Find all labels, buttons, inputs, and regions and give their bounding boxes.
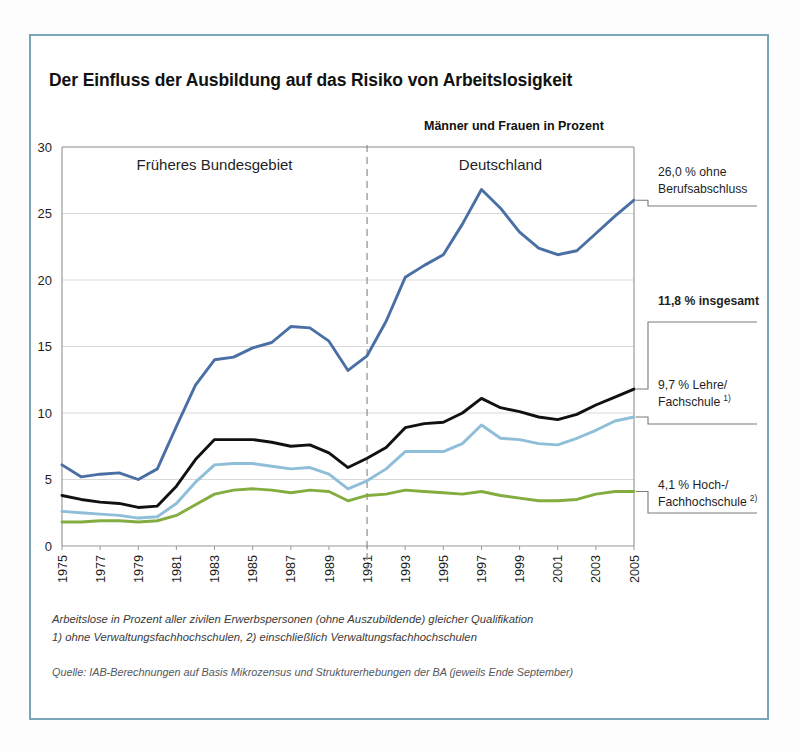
x-tick-label: 1977 bbox=[94, 555, 108, 583]
x-tick-label: 1989 bbox=[323, 555, 337, 583]
x-axis-ticks: 1975197719791981198319851987198919911993… bbox=[56, 546, 642, 583]
x-tick-label: 2001 bbox=[551, 555, 565, 583]
x-tick-label: 1999 bbox=[513, 555, 527, 583]
annotation-label-2: Fachschule1) bbox=[658, 393, 731, 409]
source-note: Quelle: IAB-Berechnungen auf Basis Mikro… bbox=[52, 666, 573, 678]
x-tick-label: 1995 bbox=[437, 555, 451, 583]
x-tick-label: 1981 bbox=[170, 555, 184, 583]
end-annotations-group: 26,0 % ohneBerufsabschluss11,8 % insgesa… bbox=[636, 165, 759, 513]
x-tick-label: 2005 bbox=[628, 555, 642, 583]
series-line-0 bbox=[62, 190, 634, 480]
region-label-0: Früheres Bundesgebiet bbox=[137, 156, 294, 173]
annotation-superscript-3: 2) bbox=[750, 493, 758, 503]
annotation-value-2: 9,7 % Lehre/ bbox=[658, 378, 728, 392]
y-tick-label: 5 bbox=[45, 472, 52, 487]
annotation-value-3: 4,1 % Hoch-/ bbox=[658, 478, 729, 492]
x-tick-label: 1987 bbox=[284, 555, 298, 583]
x-tick-label: 1975 bbox=[56, 555, 70, 583]
series-lines-group bbox=[62, 190, 634, 523]
y-tick-label: 20 bbox=[38, 273, 52, 288]
annotation-value-0: 26,0 % ohne bbox=[658, 165, 727, 179]
annotation-leader-0 bbox=[636, 200, 757, 206]
x-tick-label: 1985 bbox=[246, 555, 260, 583]
region-labels-group: Früheres BundesgebietDeutschland bbox=[137, 156, 543, 173]
region-label-1: Deutschland bbox=[459, 156, 542, 173]
x-tick-label: 1997 bbox=[475, 555, 489, 583]
y-tick-label: 10 bbox=[38, 406, 52, 421]
x-tick-label: 1979 bbox=[132, 555, 146, 583]
y-tick-label: 25 bbox=[38, 206, 52, 221]
annotation-label-0: Berufsabschluss bbox=[658, 182, 747, 196]
annotation-label-3: Fachhochschule2) bbox=[658, 493, 757, 509]
x-tick-label: 1993 bbox=[399, 555, 413, 583]
annotation-value-1: 11,8 % insgesamt bbox=[658, 294, 759, 308]
x-tick-label: 1983 bbox=[208, 555, 222, 583]
y-tick-label: 30 bbox=[38, 140, 52, 155]
y-tick-label: 0 bbox=[45, 539, 52, 554]
annotation-superscript-2: 1) bbox=[723, 393, 731, 403]
x-tick-label: 2003 bbox=[589, 555, 603, 583]
y-tick-label: 15 bbox=[38, 339, 52, 354]
y-axis-ticks: 051015202530 bbox=[38, 140, 52, 554]
figure-canvas: Der Einfluss der Ausbildung auf das Risi… bbox=[0, 0, 799, 753]
annotation-leader-2 bbox=[636, 417, 757, 424]
footnote-qualification: Arbeitslose in Prozent aller zivilen Erw… bbox=[52, 613, 533, 625]
footnote-references: 1) ohne Verwaltungsfachhochschulen, 2) e… bbox=[52, 631, 477, 643]
gridlines-group bbox=[62, 147, 634, 480]
